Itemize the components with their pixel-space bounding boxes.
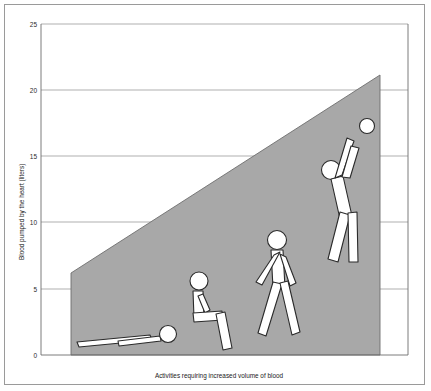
y-tick-5: 5 — [33, 286, 37, 293]
y-tick-10: 10 — [30, 219, 38, 226]
y-tick-15: 15 — [30, 153, 38, 160]
y-tick-25: 25 — [30, 21, 38, 28]
y-axis-title: Blood pumped by the heart (liters) — [18, 164, 26, 260]
area-chart: 25 20 15 10 5 0 Blood pumped by the hear… — [0, 0, 431, 391]
y-tick-labels: 25 20 15 10 5 0 — [30, 21, 38, 359]
chart-figure: 25 20 15 10 5 0 Blood pumped by the hear… — [0, 0, 431, 391]
x-axis-title: Activities requiring increased volume of… — [155, 372, 284, 380]
y-tick-20: 20 — [30, 87, 38, 94]
ball-icon — [360, 119, 375, 134]
y-tick-0: 0 — [33, 352, 37, 359]
